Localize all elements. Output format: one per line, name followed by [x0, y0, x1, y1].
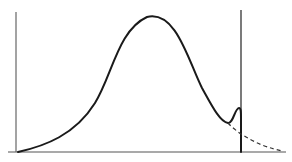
dashed-tail-extension [228, 123, 283, 151]
figure-canvas [0, 0, 292, 162]
distribution-figure [0, 0, 292, 162]
bell-curve-with-bump [18, 16, 241, 152]
